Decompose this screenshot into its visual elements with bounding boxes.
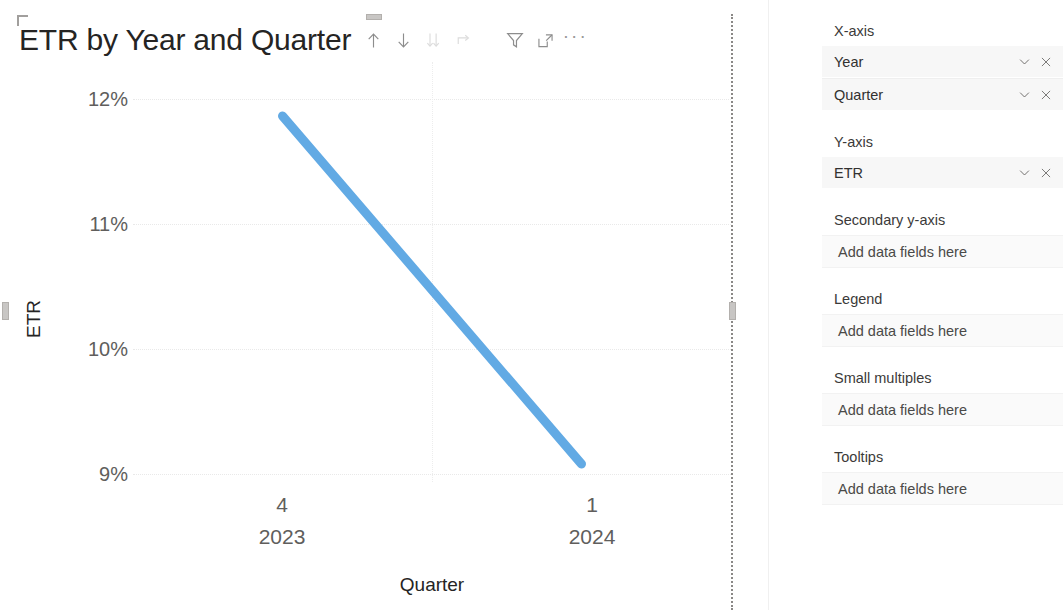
x-tick-group: 4 2023	[182, 490, 382, 554]
field-well-small-multiples: Small multiples Add data fields here	[822, 369, 1063, 426]
field-dropzone[interactable]: Add data fields here	[822, 314, 1063, 347]
spacer	[822, 0, 1063, 22]
spacer	[822, 111, 1063, 133]
field-pill-label: Year	[834, 54, 1013, 70]
visual-toolbar: ···	[359, 26, 589, 54]
x-tick-quarter: 4	[182, 490, 382, 520]
more-options-icon[interactable]: ···	[561, 26, 589, 54]
field-well-y-axis: Y-axis ETR	[822, 133, 1063, 189]
field-well-label: Tooltips	[822, 448, 1063, 472]
x-tick-year: 2023	[182, 520, 382, 554]
chart-visual-container[interactable]: ETR by Year and Quarter	[0, 0, 734, 610]
field-dropzone[interactable]: Add data fields here	[822, 235, 1063, 268]
visual-header: ETR by Year and Quarter	[19, 18, 725, 62]
field-well-label: Legend	[822, 290, 1063, 314]
field-dropzone[interactable]: Add data fields here	[822, 472, 1063, 505]
field-pill-etr[interactable]: ETR	[822, 157, 1063, 189]
field-pill-quarter[interactable]: Quarter	[822, 78, 1063, 111]
y-axis-title: ETR	[23, 279, 45, 359]
spacer	[822, 426, 1063, 448]
focus-mode-icon[interactable]	[531, 26, 559, 54]
chevron-down-icon[interactable]	[1013, 162, 1035, 184]
drill-up-icon[interactable]	[359, 26, 387, 54]
x-tick-group: 1 2024	[492, 490, 692, 554]
chevron-down-icon[interactable]	[1013, 84, 1035, 106]
chevron-down-icon[interactable]	[1013, 51, 1035, 73]
x-tick-quarter: 1	[492, 490, 692, 520]
x-tick-year: 2024	[492, 520, 692, 554]
field-pill-label: Quarter	[834, 87, 1013, 103]
filter-icon[interactable]	[501, 26, 529, 54]
plot-area[interactable]	[133, 62, 731, 482]
y-tick-label: 10%	[50, 338, 128, 361]
remove-field-icon[interactable]	[1035, 51, 1057, 73]
spacer	[822, 189, 1063, 211]
field-wells-panel: X-axis Year Quarter Y-axis ETR	[822, 0, 1063, 610]
field-well-tooltips: Tooltips Add data fields here	[822, 448, 1063, 505]
spacer	[822, 347, 1063, 369]
field-well-legend: Legend Add data fields here	[822, 290, 1063, 347]
field-pill-label: ETR	[834, 165, 1013, 181]
field-well-label: Y-axis	[822, 133, 1063, 157]
field-well-x-axis: X-axis Year Quarter	[822, 22, 1063, 111]
y-tick-label: 12%	[50, 88, 128, 111]
y-tick-label: 9%	[50, 463, 128, 486]
drill-mode-icon[interactable]	[449, 26, 477, 54]
page-title: ETR by Year and Quarter	[19, 22, 351, 58]
field-well-label: Small multiples	[822, 369, 1063, 393]
remove-field-icon[interactable]	[1035, 162, 1057, 184]
field-dropzone[interactable]: Add data fields here	[822, 393, 1063, 426]
y-tick-label: 11%	[50, 213, 128, 236]
field-well-secondary-y-axis: Secondary y-axis Add data fields here	[822, 211, 1063, 268]
field-well-label: X-axis	[822, 22, 1063, 46]
spacer	[822, 268, 1063, 290]
drill-down-icon[interactable]	[389, 26, 417, 54]
panel-divider	[768, 0, 769, 610]
expand-hierarchy-icon[interactable]	[419, 26, 447, 54]
field-pill-year[interactable]: Year	[822, 46, 1063, 78]
plot-wrapper: ETR 12% 11% 10% 9% 4 2023 1 2024 Quarter	[0, 62, 734, 610]
field-well-label: Secondary y-axis	[822, 211, 1063, 235]
remove-field-icon[interactable]	[1035, 84, 1057, 106]
line-series[interactable]	[133, 62, 731, 482]
x-axis-title: Quarter	[133, 574, 731, 596]
